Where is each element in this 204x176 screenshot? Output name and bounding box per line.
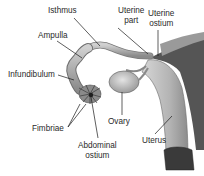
label-uterine-ostium: Uterine ostium xyxy=(148,9,174,29)
label-uterine-part-line2: part xyxy=(118,16,144,26)
label-uterine-part: Uterine part xyxy=(118,6,144,26)
label-isthmus: Isthmus xyxy=(48,6,77,16)
label-uterus: Uterus xyxy=(142,136,166,146)
label-infundibulum: Infundibulum xyxy=(8,70,55,80)
label-uterine-ostium-line2: ostium xyxy=(148,19,174,29)
label-ampulla: Ampulla xyxy=(38,31,68,41)
label-ovary: Ovary xyxy=(108,117,130,127)
cervix xyxy=(164,147,194,170)
label-uterine-ostium-line1: Uterine xyxy=(148,9,174,19)
label-abdominal-ostium: Abdominal ostium xyxy=(78,141,117,161)
label-fimbriae: Fimbriae xyxy=(32,124,64,134)
label-uterine-part-line1: Uterine xyxy=(118,6,144,16)
label-abdominal-ostium-line2: ostium xyxy=(78,151,117,161)
fimbriae xyxy=(79,85,101,104)
label-abdominal-ostium-line1: Abdominal xyxy=(78,141,117,151)
